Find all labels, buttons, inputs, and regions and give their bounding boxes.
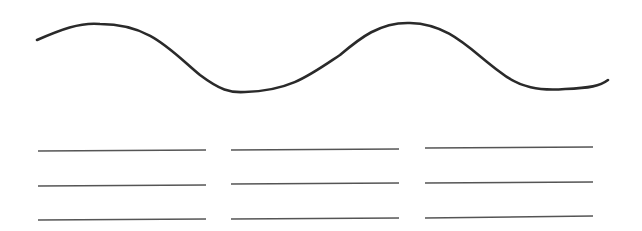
wave-curve — [37, 23, 608, 92]
answer-line-c2-r3 — [231, 218, 399, 219]
answer-line-c1-r3 — [38, 219, 206, 220]
answer-line-c3-r1 — [425, 147, 593, 148]
answer-lines-grid — [38, 147, 593, 220]
answer-line-c1-r1 — [38, 150, 206, 151]
answer-line-c1-r2 — [38, 185, 206, 186]
answer-line-c2-r1 — [231, 149, 399, 150]
answer-line-c3-r2 — [425, 182, 593, 183]
answer-line-c3-r3 — [425, 216, 593, 218]
answer-line-c2-r2 — [231, 183, 399, 184]
worksheet-canvas — [0, 0, 642, 231]
